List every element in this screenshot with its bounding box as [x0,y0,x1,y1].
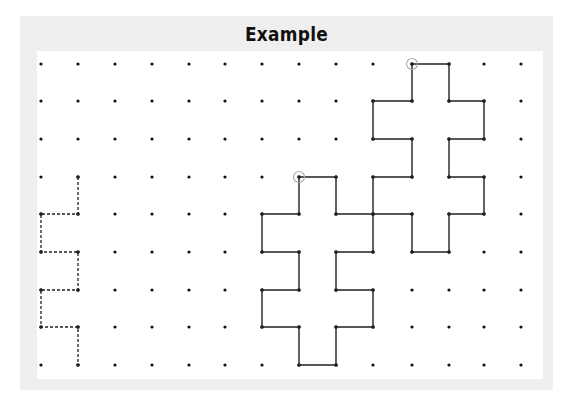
grid-dot [187,62,190,65]
path-vertex [76,325,80,329]
path-vertex [297,325,301,329]
grid-dot [39,62,42,65]
grid-dot [519,325,522,328]
path-vertex [260,288,264,292]
grid-dot [260,363,263,366]
grid-dot [447,288,450,291]
grid-dot [260,137,263,140]
grid-dot [482,62,485,65]
path-vertex [410,175,414,179]
path-vertex [260,250,264,254]
grid-dot [150,212,153,215]
grid-dot [113,363,116,366]
grid-dot [410,325,413,328]
path-vertex [410,137,414,141]
path-vertex [447,250,451,254]
grid-dot [334,99,337,102]
path-vertex [482,99,486,103]
grid-dot [482,288,485,291]
grid-dot [187,137,190,140]
grid-dot [482,325,485,328]
grid-dot [334,62,337,65]
path-vertex [371,212,375,216]
grid-dot [519,175,522,178]
grid-dot [519,99,522,102]
start-markers [294,59,418,183]
path-vertex [371,325,375,329]
path-vertex [297,175,301,179]
path-vertex [297,363,301,367]
path-vertex [76,212,80,216]
grid-dot [447,363,450,366]
grid-dot [76,99,79,102]
path-vertex [371,288,375,292]
grid-dot [39,137,42,140]
grid-dot [187,250,190,253]
path-vertex [260,325,264,329]
grid-dot [150,62,153,65]
grid-dot [519,137,522,140]
path-vertex [410,250,414,254]
path-vertex [482,212,486,216]
grid-dot [519,250,522,253]
grid-dot [113,250,116,253]
grid-dot [113,99,116,102]
grid-dot [187,212,190,215]
grid-dot [113,288,116,291]
grid-dot [223,363,226,366]
grid-dot [519,62,522,65]
path-vertex [371,99,375,103]
grid-dot [447,325,450,328]
path-vertex [482,175,486,179]
grid-dot [150,137,153,140]
path-vertex [297,288,301,292]
grid-dot [150,363,153,366]
grid-dot [187,288,190,291]
grid-dot [223,288,226,291]
grid-dot [482,363,485,366]
path-vertex [447,99,451,103]
grid-dot [482,250,485,253]
grid-dot [113,175,116,178]
grid-dot [519,288,522,291]
grid-dot [410,288,413,291]
grid-dot [113,325,116,328]
path-vertex [39,288,43,292]
grid-dot [223,99,226,102]
grid-dot [371,363,374,366]
grid-dot [519,212,522,215]
grid-dot [223,175,226,178]
path-vertex [371,137,375,141]
path-vertex [447,137,451,141]
path-vertex [334,175,338,179]
path-vertex [371,175,375,179]
path-vertex [334,250,338,254]
grid-dot [39,175,42,178]
grid-dot [223,137,226,140]
grid-dot [113,62,116,65]
grid-dot [150,175,153,178]
path-vertex [447,212,451,216]
path-vertex [260,212,264,216]
path-vertex [76,175,80,179]
grid-dot [410,363,413,366]
path-vertex [371,250,375,254]
grid-dot [113,137,116,140]
grid-dot [223,62,226,65]
path-vertex [297,212,301,216]
grid-dot [150,99,153,102]
grid-dot [187,175,190,178]
grid-dot [260,99,263,102]
upper-cross-shape [373,64,484,252]
path-vertex [39,325,43,329]
grid-dot [223,325,226,328]
path-vertex [39,250,43,254]
grid-dot [187,363,190,366]
grid-dot [519,363,522,366]
grid-dot [297,137,300,140]
path-vertex [410,212,414,216]
grid-dot [150,288,153,291]
path-vertex [334,288,338,292]
grid-dot [76,137,79,140]
grid-dot [371,62,374,65]
